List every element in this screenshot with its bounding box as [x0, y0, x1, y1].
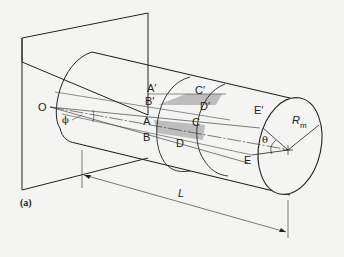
- label-A: A: [143, 115, 151, 127]
- arrowhead-left-icon: [84, 175, 91, 179]
- panel-label: (a): [20, 197, 32, 209]
- label-E-prime: E′: [254, 104, 263, 116]
- phi-pointer: [72, 115, 82, 120]
- label-R: R: [292, 114, 300, 126]
- arrowhead-right-icon: [279, 228, 286, 232]
- label-B: B: [143, 131, 150, 143]
- label-C-prime: C′: [195, 84, 205, 96]
- dim-line-L: [84, 175, 286, 232]
- label-D-prime: D′: [200, 100, 210, 112]
- label-C: C: [192, 116, 200, 128]
- wall-top-edge: [22, 13, 148, 115]
- phi-arc: [93, 110, 94, 122]
- label-L: L: [178, 187, 184, 199]
- label-R-subscript: m: [300, 121, 307, 130]
- label-B-prime: B′: [145, 95, 154, 107]
- label-E: E: [244, 154, 251, 166]
- cylinder-base-arc: [56, 52, 92, 143]
- cylinder-top-edge: [92, 52, 290, 98]
- label-theta: θ: [262, 134, 268, 145]
- shaded-element-upper: [158, 94, 222, 105]
- generator-lower: [62, 114, 252, 155]
- label-phi: ϕ: [62, 114, 69, 125]
- label-A-prime: A′: [147, 82, 156, 94]
- label-O: O: [38, 101, 47, 113]
- cylinder-diagram: O ϕ A′ B′ A B C′ D′ C D E′ E θ R m L (a): [0, 0, 344, 257]
- label-D: D: [176, 137, 184, 149]
- line-O-E-prime: [50, 107, 260, 128]
